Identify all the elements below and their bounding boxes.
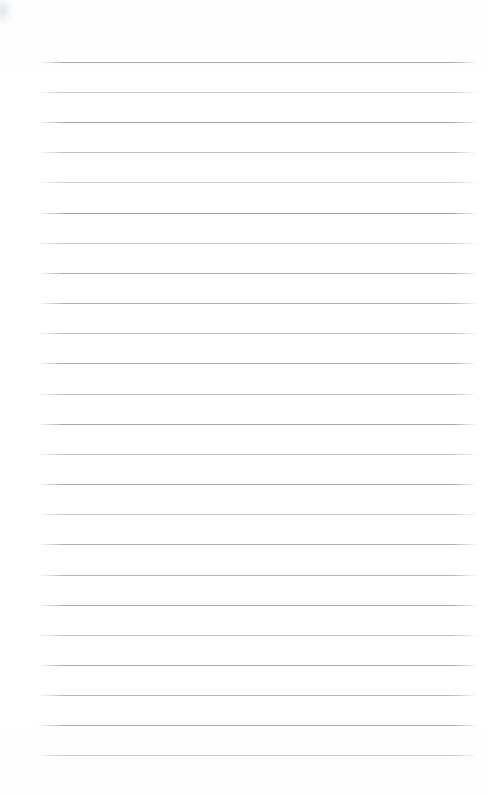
- rule-line: [38, 92, 478, 93]
- rule-line: [38, 152, 478, 153]
- rule-line: [38, 303, 478, 304]
- rule-line: [38, 363, 478, 364]
- rule-line: [38, 725, 478, 726]
- rule-line: [38, 484, 478, 485]
- rule-line: [38, 394, 478, 395]
- rule-line: [38, 213, 478, 214]
- rule-line: [38, 575, 478, 576]
- rule-line: [38, 514, 478, 515]
- rule-line: [38, 605, 478, 606]
- rule-line: [38, 62, 478, 63]
- rule-line: [38, 424, 478, 425]
- rule-line: [38, 665, 478, 666]
- rule-line: [38, 755, 478, 756]
- rule-line: [38, 695, 478, 696]
- rule-line: [38, 182, 478, 183]
- rule-line: [38, 273, 478, 274]
- rule-line: [38, 122, 478, 123]
- rule-line: [38, 544, 478, 545]
- rule-line: [38, 333, 478, 334]
- rule-line: [38, 454, 478, 455]
- notepad-page: [0, 0, 488, 795]
- ruled-lines-container: [0, 0, 488, 795]
- rule-line: [38, 635, 478, 636]
- rule-line: [38, 243, 478, 244]
